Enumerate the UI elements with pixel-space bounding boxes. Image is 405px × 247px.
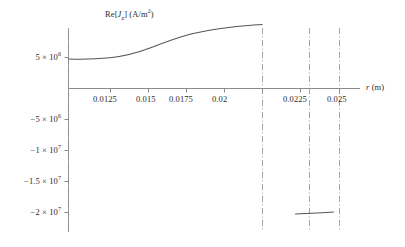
y-tick-label-1: 5 × 106 [16, 51, 61, 62]
y-axis-title: Re[Jz] (A/m2) [105, 8, 154, 21]
x-axis-ticks [111, 89, 340, 93]
current-density-plot: Re[Jz] (A/m2) r (m) 5 × 106 −5 × 106 −1 … [0, 0, 405, 247]
x-tick-label-5: 0.0225 [283, 94, 307, 104]
y-tick-label-3: −1 × 107 [12, 144, 61, 155]
y-tick-label-4: −1.5 × 107 [8, 175, 61, 186]
x-tick-label-1: 0.0125 [93, 94, 117, 104]
series-inner-conductor-curve [69, 25, 262, 60]
y-tick-label-5: −2 × 107 [12, 206, 61, 217]
x-axis-title: r (m) [366, 82, 384, 92]
series-outer-shield-curve [296, 212, 334, 214]
x-tick-label-4: 0.02 [212, 94, 227, 104]
y-tick-label-2: −5 × 106 [12, 113, 61, 124]
x-tick-label-2: 0.015 [136, 94, 156, 104]
x-tick-label-6: 0.025 [327, 94, 347, 104]
x-tick-label-3: 0.0175 [169, 94, 193, 104]
y-axis-ticks [65, 58, 69, 213]
